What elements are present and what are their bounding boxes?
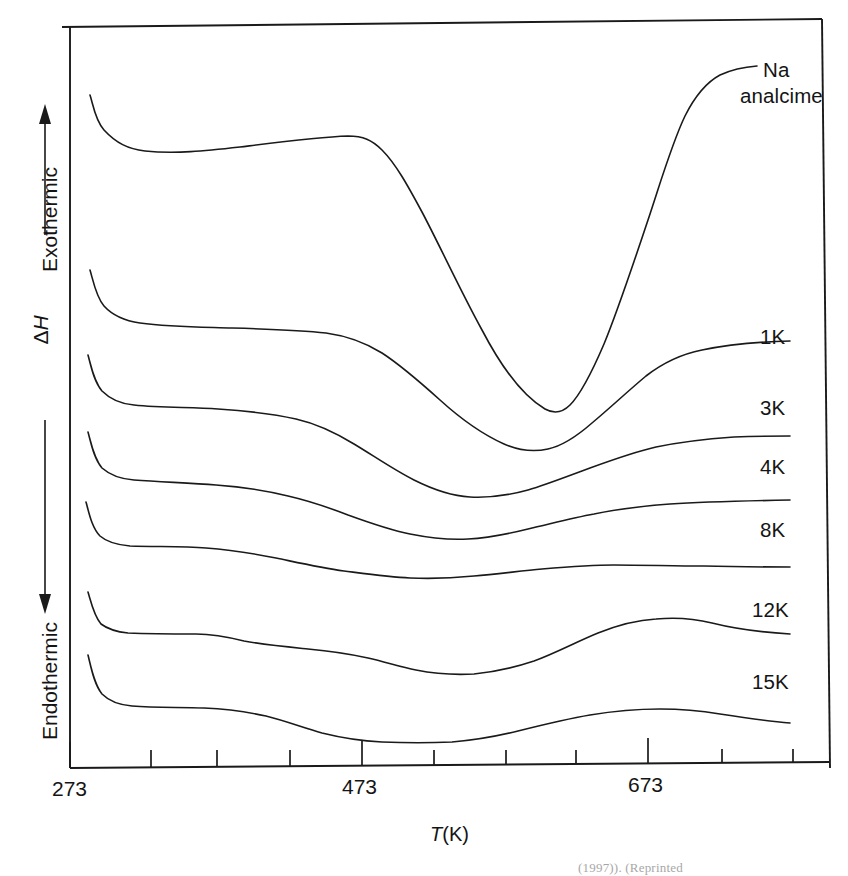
top-frame-line	[62, 19, 822, 27]
series-label-3k: 3K	[760, 396, 785, 420]
arrow-down-icon	[39, 594, 51, 614]
arrow-up-icon	[39, 104, 51, 124]
curve-8k	[86, 502, 790, 578]
series-label-12k: 12K	[752, 598, 789, 622]
series-label-1k: 1K	[760, 325, 785, 349]
x-axis-line	[70, 762, 830, 768]
curve-12k	[88, 592, 790, 674]
series-label-15k: 15K	[752, 670, 789, 694]
plot-frame	[62, 19, 830, 768]
curve-15k	[88, 655, 790, 743]
y-axis-delta-h-label: ΔH	[26, 318, 55, 342]
x-tick-label-673: 673	[628, 773, 663, 797]
curve-group	[86, 66, 790, 743]
series-label-8k: 8K	[760, 518, 785, 542]
curve-na-analcime	[90, 66, 757, 412]
enthalpy-symbol: H	[29, 315, 52, 330]
x-tick-label-273: 273	[52, 777, 87, 801]
x-axis-title: T(K)	[430, 823, 469, 846]
x-axis-title-symbol: T	[430, 823, 442, 845]
endothermic-arrow	[39, 420, 51, 614]
curve-4k	[88, 432, 790, 539]
series-label-na: Na	[763, 58, 789, 82]
right-frame-line	[822, 19, 830, 768]
y-axis-exothermic-label: Exothermic	[38, 167, 62, 272]
series-label-analcime: analcime	[740, 84, 823, 108]
y-axis-endothermic-label: Endothermic	[38, 622, 62, 740]
caption-fragment: (1997)). (Reprinted	[578, 860, 683, 876]
curve-3k	[88, 355, 790, 497]
x-axis-title-unit: (K)	[442, 823, 469, 845]
curve-1k	[90, 270, 790, 451]
x-tick-label-473: 473	[342, 775, 377, 799]
delta-symbol: Δ	[29, 331, 52, 345]
series-label-4k: 4K	[760, 455, 785, 479]
